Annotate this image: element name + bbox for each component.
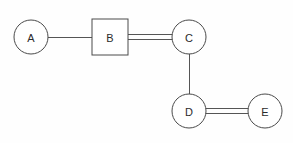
node-layer: A B C D E [14,19,282,128]
node-b[interactable]: B [92,19,128,55]
edge-layer [48,35,250,114]
node-d[interactable]: D [172,94,206,128]
diagram-svg: A B C D E [0,0,293,143]
node-a-label: A [27,32,35,44]
node-a[interactable]: A [14,20,48,54]
node-e-label: E [261,106,268,118]
node-b-label: B [106,32,113,44]
node-c-label: C [185,32,193,44]
edge-b-c [128,35,176,40]
edge-d-e [204,109,250,114]
diagram-canvas: A B C D E [0,0,293,143]
node-c[interactable]: C [172,20,206,54]
node-d-label: D [185,106,193,118]
node-e[interactable]: E [248,94,282,128]
